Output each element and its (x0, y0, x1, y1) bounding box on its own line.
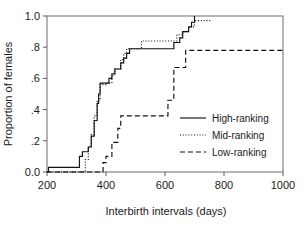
x-tick-label: 1000 (271, 179, 295, 191)
x-tick-label: 200 (38, 179, 56, 191)
x-tick-label: 400 (97, 179, 115, 191)
y-tick-label: .2 (31, 135, 40, 147)
legend-label-high-ranking: High-ranking (212, 113, 269, 124)
y-axis-label: Proportion of females (2, 41, 14, 146)
y-tick-label: .6 (31, 72, 40, 84)
x-axis-label: Interbirth intervals (days) (105, 205, 226, 217)
chart-svg: 2004006008001000 0.0.2.4.6.81.0 High-ran… (0, 0, 304, 226)
x-tick-label: 600 (156, 179, 174, 191)
legend-label-low-ranking: Low-ranking (212, 147, 266, 158)
y-tick-label: .4 (31, 104, 40, 116)
x-tick-label: 800 (215, 179, 233, 191)
chart-figure: 2004006008001000 0.0.2.4.6.81.0 High-ran… (0, 0, 304, 226)
legend-label-mid-ranking: Mid-ranking (212, 130, 264, 141)
y-tick-label: 0.0 (25, 166, 40, 178)
y-tick-label: 1.0 (25, 10, 40, 22)
y-tick-label: .8 (31, 41, 40, 53)
